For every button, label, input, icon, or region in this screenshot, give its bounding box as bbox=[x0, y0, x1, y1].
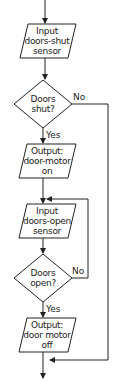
decision-doors-open-label: Doors open? bbox=[18, 268, 68, 288]
output-motor-on-label: Output: door-motor on bbox=[20, 146, 74, 176]
label-line: doors-open bbox=[20, 216, 74, 226]
input-doors-open-label: Input doors-open sensor bbox=[20, 206, 74, 236]
decision-doors-shut-label: Doors shut? bbox=[18, 94, 68, 114]
label-line: Output: bbox=[20, 320, 74, 330]
label-line: door-motor bbox=[20, 156, 74, 166]
label-line: door motor bbox=[20, 330, 74, 340]
edge-label-yes: Yes bbox=[46, 130, 61, 140]
label-line: Doors bbox=[18, 94, 68, 104]
label-line: shut? bbox=[18, 104, 68, 114]
label-line: Input bbox=[22, 26, 72, 36]
output-motor-off-label: Output: door motor off bbox=[20, 320, 74, 350]
input-doors-shut-label: Input doors-shut sensor bbox=[22, 26, 72, 56]
label-line: off bbox=[20, 340, 74, 350]
label-line: doors-shut bbox=[22, 36, 72, 46]
edge-label-no: No bbox=[73, 92, 85, 102]
label-line: Output: bbox=[20, 146, 74, 156]
label-line: sensor bbox=[22, 46, 72, 56]
label-line: open? bbox=[18, 278, 68, 288]
edge-label-no: No bbox=[72, 266, 84, 276]
edge-label-yes: Yes bbox=[46, 304, 61, 314]
label-line: Input bbox=[20, 206, 74, 216]
label-line: Doors bbox=[18, 268, 68, 278]
label-line: on bbox=[20, 166, 74, 176]
label-line: sensor bbox=[20, 226, 74, 236]
